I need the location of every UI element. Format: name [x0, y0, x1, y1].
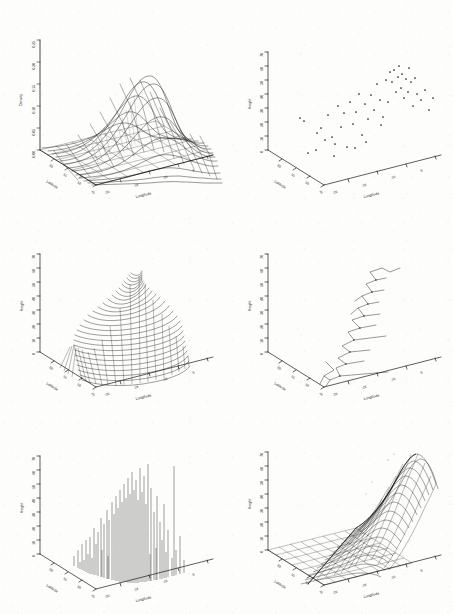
- panel-b-points: [299, 65, 434, 157]
- panel-e-x-tick-1: -15: [133, 587, 139, 592]
- panel-d-trajectory: [320, 268, 400, 386]
- panel-c-z-axis-label: Height: [20, 301, 24, 311]
- panel-a-z-axis-label: Density: [19, 94, 23, 106]
- panel-f-x-tick-1: -15: [361, 583, 367, 588]
- figure-six-3d-plots: surface: [0, 0, 453, 614]
- panel-d-z-tick-1: 60: [260, 269, 264, 273]
- panel-c-z-tick-2: 50: [32, 283, 36, 287]
- panel-c-z-tick-7: 0: [32, 353, 36, 355]
- panel-f-z-axis-label: Height: [248, 499, 252, 509]
- panel-a-y-tick-2: 50: [76, 180, 81, 185]
- panel-f-z-tick-2: 50: [260, 481, 264, 485]
- panel-a-x-tick-0: -20: [104, 190, 110, 195]
- panel-e-y-tick-2: 50: [76, 584, 81, 589]
- panel-d-z-tick-3: 40: [260, 297, 264, 301]
- panel-f-specks: [366, 454, 395, 495]
- panel-a-z-tick-1: 0.20: [32, 63, 36, 70]
- panel-e-y-axis-label: Latitude: [45, 583, 58, 593]
- panel-c-z-tick-0: 70: [32, 255, 36, 259]
- panel-c-z-tick-5: 20: [32, 325, 36, 329]
- panel-e-z-tick-4: 30: [32, 513, 36, 517]
- panel-b-x-tick-3: -5: [419, 168, 423, 173]
- panel-b-x-tick-1: -15: [361, 183, 367, 188]
- panel-b-y-tick-1: 55: [290, 172, 295, 177]
- panel-a-canvas: 0.25 0.20 0.15 0.10 0.05 0.00 Density 60…: [8, 22, 223, 202]
- panel-d-z-tick-2: 50: [260, 283, 264, 287]
- panel-d-axes: [265, 254, 441, 389]
- panel-a-x-tick-3: -5: [191, 168, 195, 173]
- panel-b-z-tick-3: 40: [260, 95, 264, 99]
- panel-f-z-tick-4: 30: [260, 509, 264, 513]
- panel-d-z-tick-5: 20: [260, 325, 264, 329]
- panel-f-y-tick-2: 50: [304, 580, 309, 585]
- panel-b-x-tick-0: -20: [332, 190, 338, 195]
- panel-c-z-tick-3: 40: [32, 297, 36, 301]
- panel-b-z-tick-5: 20: [260, 123, 264, 127]
- panel-e-x-tick-0: -20: [104, 594, 110, 599]
- panel-d-canvas: 70 60 50 40 30 20 10 0 Height 60 55 50 4…: [238, 228, 450, 408]
- panel-a-y-axis-label: Latitude: [45, 179, 58, 189]
- panel-b-y-tick-3: 45: [318, 189, 323, 194]
- panel-b-z-axis-label: Height: [248, 99, 252, 109]
- panel-d-z-tick-6: 10: [260, 339, 264, 343]
- panel-e-z-tick-5: 20: [32, 527, 36, 531]
- panel-b-z-tick-4: 30: [260, 109, 264, 113]
- panel-b-z-tick-2: 50: [260, 81, 264, 85]
- panel-e-x-tick-2: -10: [162, 579, 168, 584]
- panel-a-z-tick-5: 0.00: [32, 151, 36, 158]
- panel-c-x-tick-2: -10: [162, 377, 168, 382]
- panel-d-x-tick-0: -20: [332, 392, 338, 397]
- panel-b-z-tick-7: 0: [260, 151, 264, 153]
- panel-f-y-tick-0: 60: [276, 563, 281, 568]
- panel-c-z-tick-1: 60: [32, 269, 36, 273]
- panel-c-contour-ribbon: contour-ribbon: [8, 228, 223, 408]
- panel-a-x-axis-label: Longitude: [135, 191, 151, 199]
- panel-f-z-tick-1: 60: [260, 467, 264, 471]
- panel-a-y-tick-3: 45: [90, 189, 95, 194]
- panel-e-z-axis-label: Height: [20, 503, 24, 513]
- panel-b-z-tick-6: 10: [260, 137, 264, 141]
- panel-c-contours: [74, 271, 190, 386]
- panel-c-x-axis-label: Longitude: [135, 393, 151, 401]
- panel-f-x-tick-0: -20: [332, 590, 338, 595]
- panel-e-x-tick-3: -5: [191, 572, 195, 577]
- panel-f-z-tick-6: 10: [260, 537, 264, 541]
- panel-b-scatter: scatter: [238, 22, 450, 202]
- panel-f-mesh-surface: mesh-surface: [238, 432, 450, 612]
- panel-f-y-tick-1: 55: [290, 572, 295, 577]
- panel-a-density-surface: surface: [8, 22, 223, 202]
- panel-d-z-tick-4: 30: [260, 311, 264, 315]
- panel-e-z-tick-1: 60: [32, 471, 36, 475]
- panel-a-z-tick-2: 0.15: [32, 85, 36, 92]
- panel-f-y-axis-label: Latitude: [273, 579, 286, 589]
- panel-b-x-tick-2: -10: [390, 175, 396, 180]
- panel-b-canvas: 70 60 50 40 30 20 10 0 Height 60 55 50 4…: [238, 22, 450, 202]
- panel-f-z-tick-7: 0: [260, 551, 264, 553]
- panel-f-canvas: 70 60 50 40 30 20 10 0 Height 60 55 50 4…: [238, 432, 450, 612]
- panel-d-y-tick-0: 60: [276, 365, 281, 370]
- panel-f-z-tick-0: 70: [260, 453, 264, 457]
- panel-c-x-tick-0: -20: [104, 392, 110, 397]
- panel-c-y-tick-3: 45: [90, 391, 95, 396]
- panel-b-y-tick-0: 60: [276, 163, 281, 168]
- panel-e-z-tick-3: 40: [32, 499, 36, 503]
- panel-a-axes: [37, 40, 213, 187]
- panel-f-leading-edge: [308, 454, 416, 584]
- panel-c-z-tick-4: 30: [32, 311, 36, 315]
- panel-c-z-tick-6: 10: [32, 339, 36, 343]
- panel-f-z-tick-3: 40: [260, 495, 264, 499]
- panel-d-z-tick-0: 70: [260, 255, 264, 259]
- panel-e-stem: stem: [8, 432, 223, 612]
- panel-a-z-tick-3: 0.10: [32, 107, 36, 114]
- panel-d-y-tick-1: 55: [290, 374, 295, 379]
- panel-b-y-axis-label: Latitude: [273, 179, 286, 189]
- panel-c-canvas: 70 60 50 40 30 20 10 0 Height 60 55 50 4…: [8, 228, 223, 408]
- panel-b-y-tick-2: 50: [304, 180, 309, 185]
- panel-a-y-tick-0: 60: [48, 163, 53, 168]
- panel-e-z-tick-2: 50: [32, 485, 36, 489]
- panel-a-z-tick-0: 0.25: [32, 41, 36, 48]
- panel-c-x-tick-1: -15: [133, 385, 139, 390]
- panel-b-x-axis-label: Longitude: [363, 191, 379, 199]
- panel-d-y-tick-3: 45: [318, 391, 323, 396]
- panel-f-x-axis-label: Longitude: [363, 591, 379, 599]
